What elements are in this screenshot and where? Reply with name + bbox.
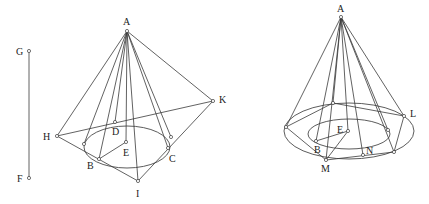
point-ellipse-right (169, 135, 172, 138)
segment-ki (138, 101, 213, 181)
point-poly-left (284, 125, 287, 128)
segment-eb (99, 142, 126, 159)
point-m (324, 158, 327, 161)
label-n: N (366, 145, 373, 156)
edge-ak (127, 31, 213, 101)
segment-hk (57, 101, 213, 136)
label-g: G (16, 46, 23, 57)
point-b (314, 139, 317, 142)
edge-ac (127, 31, 168, 148)
point-e (346, 129, 349, 132)
label-b: B (314, 144, 321, 155)
edge-a-left (84, 31, 127, 144)
point-h (55, 134, 58, 137)
right-figure: A L E B N M (284, 3, 416, 174)
label-m: M (321, 163, 330, 174)
edge-a-inner-right (341, 17, 388, 130)
segment-eb (316, 131, 348, 141)
edge-ae (126, 31, 127, 142)
edge-ae (341, 17, 348, 131)
point-f (27, 176, 30, 179)
point-a (339, 15, 342, 18)
point-g (27, 49, 30, 52)
edge-ab (99, 31, 127, 159)
point-b (97, 157, 100, 160)
point-k (211, 99, 214, 102)
edge-an (341, 17, 363, 155)
label-a: A (337, 3, 345, 14)
point-a (125, 29, 128, 32)
edge-a-p1 (286, 17, 341, 127)
label-h: H (43, 131, 50, 142)
label-b: B (87, 160, 94, 171)
edge-am (326, 17, 341, 160)
point-inner-right (386, 128, 389, 131)
label-e: E (123, 147, 129, 158)
point-e (124, 140, 127, 143)
left-figure: A G F H K D E B C I (16, 16, 227, 199)
segment-em (326, 131, 348, 160)
point-poly-bottom-right (392, 150, 395, 153)
label-a: A (123, 16, 131, 27)
geometry-diagram: A G F H K D E B C I (0, 0, 429, 204)
label-i: I (136, 188, 139, 199)
label-f: F (17, 173, 23, 184)
point-n (361, 153, 364, 156)
point-c (166, 146, 169, 149)
point-l (402, 114, 405, 117)
label-d: D (112, 126, 119, 137)
label-e: E (337, 124, 343, 135)
point-i (136, 179, 139, 182)
edge-al (341, 17, 404, 116)
point-d (113, 120, 116, 123)
label-l: L (410, 108, 416, 119)
label-k: K (219, 94, 227, 105)
edge-ah (57, 31, 127, 136)
point-poly-top (331, 101, 334, 104)
edge-ab (316, 17, 341, 141)
point-ellipse-left (82, 142, 85, 145)
label-c: C (169, 153, 176, 164)
